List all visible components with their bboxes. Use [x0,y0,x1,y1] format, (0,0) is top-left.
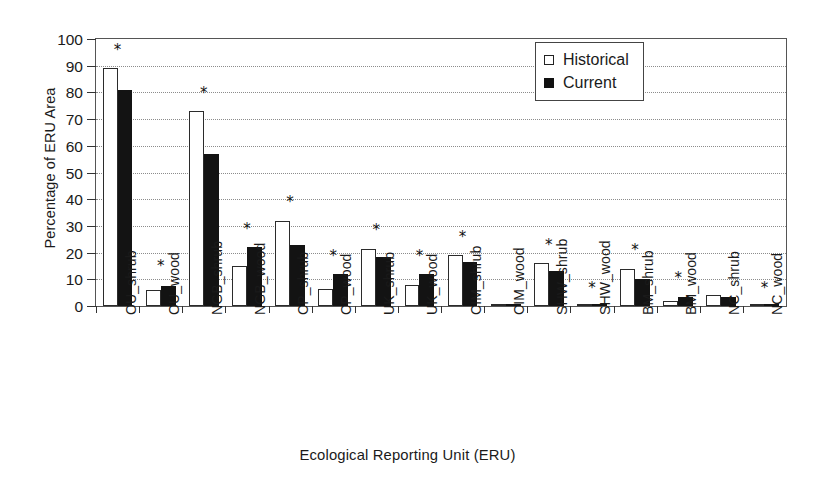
significance-star-ou_shrub: * [96,45,139,55]
y-axis-tick-label: 10 [66,270,83,290]
y-axis-tick-label: 60 [66,137,83,157]
x-axis-label-uk_shrub: UK_shrub [381,252,397,315]
x-axis-label-uk_wood: UK_wood [424,254,440,315]
x-axis-label-nc_shrub: NC_shrub [726,251,742,315]
significance-star-uk_shrub: * [355,225,398,235]
y-axis-tick: 30 [87,226,96,227]
y-axis-tick: 50 [87,173,96,174]
y-axis-tick-label: 30 [66,217,83,237]
x-axis-label-cim_shrub: CIM_shrub [468,246,484,315]
x-axis-tick [570,306,571,313]
bar-historical-nc_shrub [706,295,721,306]
x-axis-label-cp_shrub: CP_shrub [295,252,311,315]
x-axis-tick [312,306,313,313]
significance-star-ngb_shrub: * [182,88,225,98]
x-axis-label-ou_wood: OU_wood [166,252,182,315]
bar-historical-uk_shrub [361,249,376,306]
y-axis-tick: 100 [87,39,96,40]
y-axis-tick: 0 [87,306,96,307]
y-axis-tick: 60 [87,146,96,147]
x-axis-tick [527,306,528,313]
x-axis-label-ngb_shrub: NGB_shrub [209,241,225,315]
x-axis-label-bm_wood: BM_wood [683,252,699,315]
x-axis-tick [269,306,270,313]
legend-label-historical: Historical [563,51,629,69]
bar-historical-cp_shrub [275,221,290,306]
x-axis-tick [355,306,356,313]
bar-historical-ou_shrub [103,68,118,306]
x-axis-tick [225,306,226,313]
x-axis-label-ngb_wood: NGB_wood [252,243,268,315]
x-axis-title: Ecological Reporting Unit (ERU) [0,447,815,463]
x-axis-tick [96,306,97,313]
bar-historical-ou_wood [146,290,161,306]
x-axis-label-cp_wood: CP_wood [338,254,354,315]
legend-swatch-historical-icon [544,55,554,65]
bar-chart-figure: Percentage of ERU Area 01020304050607080… [0,0,815,483]
x-axis-label-shw_wood: SHW_wood [597,240,613,315]
x-axis-tick [139,306,140,313]
bar-historical-shw_wood [577,304,592,306]
bar-historical-nc_wood [750,304,765,306]
bar-historical-bm_wood [663,301,678,306]
x-axis-tick [398,306,399,313]
legend-item-historical: Historical [544,48,629,71]
y-axis-tick: 90 [87,66,96,67]
x-axis-label-shw_shrub: SHW_shrub [554,239,570,315]
y-axis-tick: 70 [87,119,96,120]
y-axis-tick: 40 [87,199,96,200]
bar-historical-shw_shrub [534,263,549,306]
bar-historical-cp_wood [318,289,333,306]
bar-historical-ngb_shrub [189,111,204,306]
bar-historical-cim_shrub [448,255,463,306]
bar-historical-uk_wood [405,285,420,306]
x-axis-label-nc_wood: NC_wood [769,253,785,315]
significance-star-ngb_wood: * [225,224,268,234]
x-axis-tick [484,306,485,313]
legend-label-current: Current [563,74,616,92]
x-axis-tick [441,306,442,313]
y-axis-tick-label: 80 [66,83,83,103]
y-axis-tick-label: 40 [66,190,83,210]
y-axis-tick: 20 [87,253,96,254]
bar-historical-bm_shrub [620,269,635,306]
y-axis-tick-label: 20 [66,244,83,264]
y-axis-tick: 10 [87,279,96,280]
x-axis-label-bm_shrub: BM_shrub [640,250,656,315]
y-axis-tick-label: 90 [66,57,83,77]
x-axis-tick [657,306,658,313]
x-axis-label-ou_shrub: OU_shrub [123,250,139,315]
x-axis-tick [743,306,744,313]
x-axis-tick [182,306,183,313]
y-axis-tick: 80 [87,92,96,93]
significance-star-cp_shrub: * [269,197,312,207]
significance-star-cim_shrub: * [441,232,484,242]
x-axis-label-cim_wood: CIM_wood [511,247,527,315]
legend-item-current: Current [544,71,629,94]
y-axis-title: Percentage of ERU Area [42,28,58,308]
y-axis-tick-label: 100 [57,30,83,50]
y-axis-tick-label: 50 [66,164,83,184]
bar-historical-ngb_wood [232,266,247,306]
y-axis-tick-label: 0 [74,297,83,317]
x-axis-tick [614,306,615,313]
x-axis-tick [700,306,701,313]
y-axis-tick-label: 70 [66,110,83,130]
legend-swatch-current-icon [544,78,554,88]
chart-legend: Historical Current [535,42,644,101]
bar-historical-cim_wood [491,304,506,306]
